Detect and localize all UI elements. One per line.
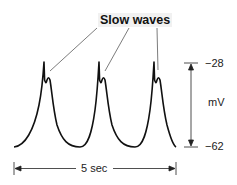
diagram-title: Slow waves (98, 13, 172, 27)
leader-lines (50, 28, 158, 71)
membrane-potential-trace (14, 62, 176, 147)
waveform-plot (0, 0, 237, 185)
y-unit-label: mV (208, 97, 225, 108)
slow-wave-diagram: Slow waves −28 mV −62 5 sec (0, 0, 237, 185)
x-scale-label: 5 sec (81, 163, 107, 174)
voltage-scale-bar (184, 63, 198, 147)
y-top-label: −28 (205, 58, 224, 69)
y-bottom-label: −62 (205, 141, 224, 152)
